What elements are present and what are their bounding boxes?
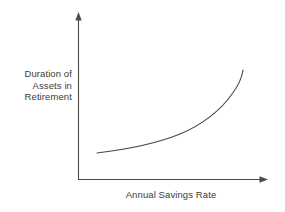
data-curve-duration-of-assets xyxy=(97,70,243,153)
y-axis-label-line-1: Duration of xyxy=(0,68,72,80)
y-axis-arrowhead-icon xyxy=(75,12,81,21)
chart-figure: Duration of Assets in Retirement Annual … xyxy=(0,0,285,212)
x-axis-label: Annual Savings Rate xyxy=(78,189,264,201)
y-axis-label-line-2: Assets in xyxy=(0,80,72,92)
y-axis-label-line-3: Retirement xyxy=(0,91,72,103)
chart-plot-area xyxy=(0,0,285,212)
x-axis-arrowhead-icon xyxy=(260,176,269,182)
y-axis-label: Duration of Assets in Retirement xyxy=(0,68,72,103)
